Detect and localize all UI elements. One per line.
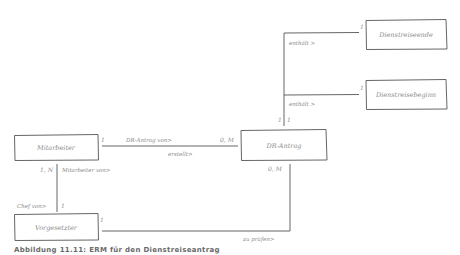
line-antrag-ende: [284, 33, 359, 127]
rel-enthaelt-beginn: enthält >: [289, 101, 316, 107]
rel-dr-antrag-von: DR-Antrag von>: [125, 137, 172, 144]
rel-enthaelt-ende: enthält >: [289, 40, 316, 46]
card-antrag-vorgesetzter: 0, M: [268, 165, 283, 172]
card-vorgesetzter-antrag: 1: [100, 216, 104, 223]
card-mitarbeiter-vorgesetzter: 1, N: [40, 166, 54, 173]
erm-diagram: Mitarbeiter DR-Antrag Vorgesetzter Diens…: [0, 0, 460, 255]
entity-dienstreiseende: Dienstreiseende: [378, 31, 433, 39]
line-vorgesetzter-antrag: [102, 164, 290, 231]
card-antrag-mitarbeiter: 0, M: [220, 136, 235, 143]
figure-caption: Abbildung 11.11: ERM für den Dienstreise…: [14, 246, 220, 254]
card-vorgesetzter-mitarbeiter: 1: [61, 202, 65, 209]
rel-erstellt: erstellt>: [168, 151, 193, 157]
entity-dienstreisebeginn: Dienstreisebeginn: [375, 91, 436, 99]
rel-mitarbeiter-von: Mitarbeiter von>: [61, 167, 111, 173]
card-antrag-beginn: 1: [287, 116, 291, 123]
card-ende: 1: [360, 23, 364, 30]
rel-zu-pruefen: zu prüfen>: [242, 236, 275, 243]
entity-vorgesetzter: Vorgesetzter: [35, 224, 78, 232]
entity-mitarbeiter: Mitarbeiter: [36, 144, 76, 152]
rel-chef-von: Chef von>: [17, 203, 47, 210]
line-antrag-beginn: [284, 95, 359, 96]
card-mitarbeiter-antrag: 1: [101, 136, 105, 143]
entity-dr-antrag: DR-Antrag: [266, 142, 302, 150]
card-antrag-ende: 1: [278, 116, 282, 123]
card-beginn: 1: [360, 84, 364, 91]
